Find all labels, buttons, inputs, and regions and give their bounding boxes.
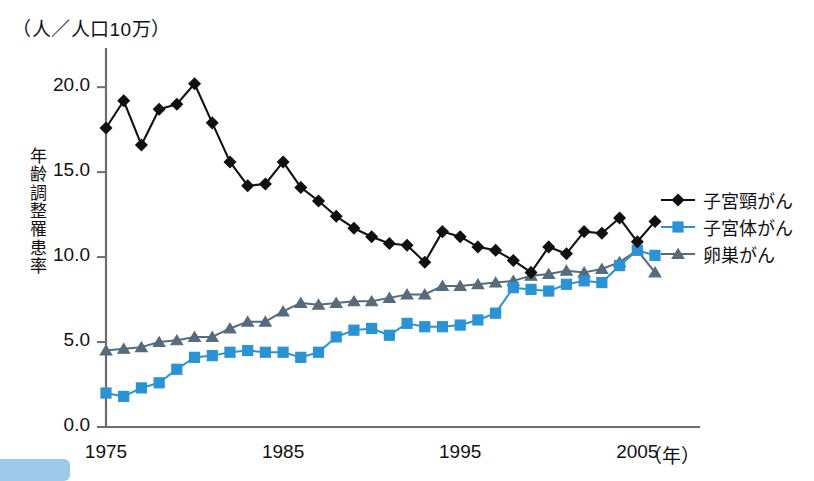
data-point-square (615, 261, 625, 271)
y-tick-label: 10.0 (30, 244, 90, 266)
diamond-marker-icon (660, 191, 696, 209)
y-tick-label: 5.0 (30, 329, 90, 351)
data-point-square (278, 347, 288, 357)
data-point-diamond (673, 194, 684, 205)
y-tick-label: 0.0 (30, 414, 90, 436)
data-point-square (402, 318, 412, 328)
legend-item-uterine[interactable]: 子宮体がん (660, 213, 793, 240)
legend-item-label: 子宮頸がん (703, 187, 793, 213)
data-point-square (331, 332, 341, 342)
data-point-square (119, 391, 129, 401)
data-point-square (367, 323, 377, 333)
data-point-square (437, 322, 447, 332)
data-point-square (544, 286, 554, 296)
x-tick-label: 1995 (415, 441, 505, 463)
data-point-square (420, 322, 430, 332)
square-marker-icon (660, 218, 696, 236)
data-point-square (473, 315, 483, 325)
data-point-triangle (596, 264, 608, 274)
series-line (106, 250, 655, 350)
data-point-square (349, 325, 359, 335)
data-point-square (136, 383, 146, 393)
data-point-diamond (207, 117, 218, 128)
data-point-square (384, 330, 394, 340)
data-point-square (508, 283, 518, 293)
data-point-diamond (136, 140, 147, 151)
triangle-marker-icon (660, 245, 696, 263)
data-point-diamond (154, 104, 165, 115)
data-point-diamond (101, 123, 112, 134)
data-point-diamond (473, 241, 484, 252)
data-point-square (296, 352, 306, 362)
data-point-square (243, 346, 253, 356)
legend-item-label: 卵巣がん (703, 241, 775, 267)
data-point-square (491, 308, 501, 318)
data-point-square (561, 279, 571, 289)
data-point-square (455, 320, 465, 330)
data-point-diamond (490, 245, 501, 256)
y-tick-label: 20.0 (30, 74, 90, 96)
data-point-triangle (277, 306, 289, 316)
data-point-diamond (118, 95, 129, 106)
data-point-diamond (455, 231, 466, 242)
data-point-square (314, 347, 324, 357)
y-axis-title-char: 調 (26, 185, 50, 203)
data-point-square (190, 352, 200, 362)
data-point-square (650, 250, 660, 260)
data-point-square (207, 351, 217, 361)
y-axis-unit-label: （人／人口10万） (12, 14, 171, 41)
x-tick-label: 1985 (238, 441, 328, 463)
series-3 (100, 245, 661, 355)
data-point-square (101, 388, 111, 398)
x-tick-label: 1975 (61, 441, 151, 463)
data-point-triangle (224, 323, 236, 333)
legend-item-label: 子宮体がん (703, 214, 793, 240)
legend-item-cervical[interactable]: 子宮頸がん (660, 186, 793, 213)
data-point-square (172, 364, 182, 374)
page-corner-tab (0, 459, 70, 481)
y-axis-title-char: 罹 (26, 221, 50, 239)
data-point-square (154, 378, 164, 388)
data-point-diamond (384, 238, 395, 249)
data-point-square (260, 347, 270, 357)
data-point-square (673, 222, 683, 232)
legend-item-ovarian[interactable]: 卵巣がん (660, 240, 793, 267)
y-axis-title-char: 整 (26, 203, 50, 221)
x-axis-unit-label: （年） (643, 441, 700, 468)
series-2 (101, 245, 660, 401)
chart-legend: 子宮頸がん 子宮体がん 卵巣がん (660, 186, 793, 267)
data-point-diamond (437, 226, 448, 237)
data-point-square (579, 276, 589, 286)
y-tick-label: 15.0 (30, 159, 90, 181)
series-line (106, 84, 655, 273)
data-point-square (526, 284, 536, 294)
data-point-square (597, 278, 607, 288)
series-1 (101, 78, 661, 277)
data-point-diamond (366, 231, 377, 242)
data-point-square (225, 347, 235, 357)
